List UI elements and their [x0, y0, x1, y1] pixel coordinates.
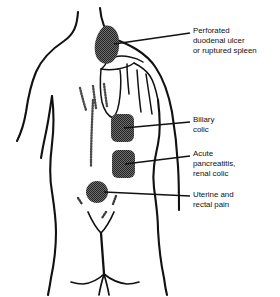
gluteal-fold-left: [71, 274, 104, 284]
label-biliary-colic: Biliary colic: [193, 115, 214, 135]
label-acute-pancreatitis-renal-colic: Acute pancreatitis, renal colic: [193, 149, 235, 180]
label-line: Acute: [193, 149, 235, 159]
label-line: Perforated: [193, 26, 257, 36]
sacral-tick-right: [113, 196, 116, 204]
left-inner-arm-contour: [41, 96, 52, 158]
label-line: renal colic: [193, 169, 235, 179]
scapula-body-left: [100, 69, 113, 118]
vertebral-column-stipple: [91, 100, 93, 166]
label-line: rectal pain: [193, 200, 234, 210]
scapula-medial-border: [113, 70, 121, 118]
humerus-line-a: [137, 70, 141, 112]
rib-stipple-3: [104, 84, 107, 106]
acromion-left: [118, 63, 134, 69]
label-perforated-duodenal-ulcer: Perforated duodenal ulcer or ruptured sp…: [193, 26, 257, 57]
sacral-tick-center: [102, 212, 106, 218]
label-line: Biliary: [193, 115, 214, 125]
humerus-line-c: [127, 64, 129, 94]
gluteal-cleft: [101, 233, 104, 274]
label-line: duodenal ulcer: [193, 36, 257, 46]
humerus-line-b: [146, 74, 152, 114]
gluteal-v-left: [88, 212, 101, 233]
gluteal-fold-right: [104, 274, 139, 284]
patch-shoulder: [95, 26, 119, 64]
label-line: or ruptured spleen: [193, 46, 257, 56]
leader-line-perforated-ulcer: [114, 33, 190, 44]
label-line: Uterine and: [193, 190, 234, 200]
label-uterine-rectal-pain: Uterine and rectal pain: [193, 190, 234, 210]
right-buttock-contour: [158, 230, 167, 295]
label-line: pancreatitis,: [193, 159, 235, 169]
right-torso-side: [153, 100, 160, 230]
label-line: colic: [193, 125, 214, 135]
rib-stipple-1: [80, 88, 86, 110]
sacral-tick-left: [78, 198, 82, 204]
left-buttock-contour: [48, 232, 56, 295]
referred-pain-diagram: Perforated duodenal ulcer or ruptured sp…: [0, 0, 280, 297]
left-torso-side: [50, 96, 56, 232]
